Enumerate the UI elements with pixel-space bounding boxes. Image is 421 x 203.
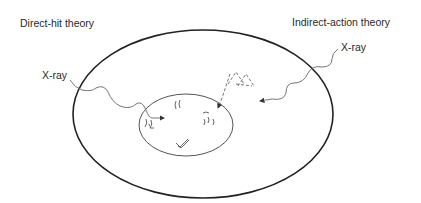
nucleus-outline: [139, 94, 233, 156]
diagram-canvas: [0, 0, 421, 203]
free-radicals: [218, 72, 254, 108]
cell-outline: [73, 30, 333, 198]
dna-fragments: [145, 100, 214, 148]
x-ray-left-path: [70, 80, 164, 118]
